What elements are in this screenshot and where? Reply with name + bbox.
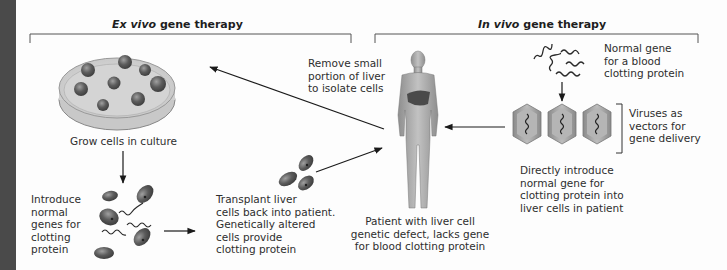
label-introduce-genes: Introduce normal genes for clotting prot… [31,193,81,256]
label-viruses: Viruses as vectors for gene delivery [629,107,701,145]
label-patient: Patient with liver cell genetic defect, … [307,215,533,253]
arrow-icon [316,148,382,172]
dna-strand-icon [534,44,584,76]
virus-bracket [616,104,622,153]
label-remove-liver: Remove small portion of liver to isolate… [308,57,385,95]
ex-vivo-bracket [30,34,351,43]
petri-dish-icon [59,55,175,130]
label-direct-introduce: Directly introduce normal gene for clott… [520,164,624,214]
liver-cell-icon [94,182,157,259]
label-grow-cells: Grow cells in culture [70,135,177,148]
human-figure-icon [398,51,438,208]
liver-cell-icon [276,152,316,193]
label-normal-gene: Normal gene for a blood clotting protein [604,42,684,80]
liver-organ-icon [407,90,430,105]
virus-vector-icon [513,104,611,144]
